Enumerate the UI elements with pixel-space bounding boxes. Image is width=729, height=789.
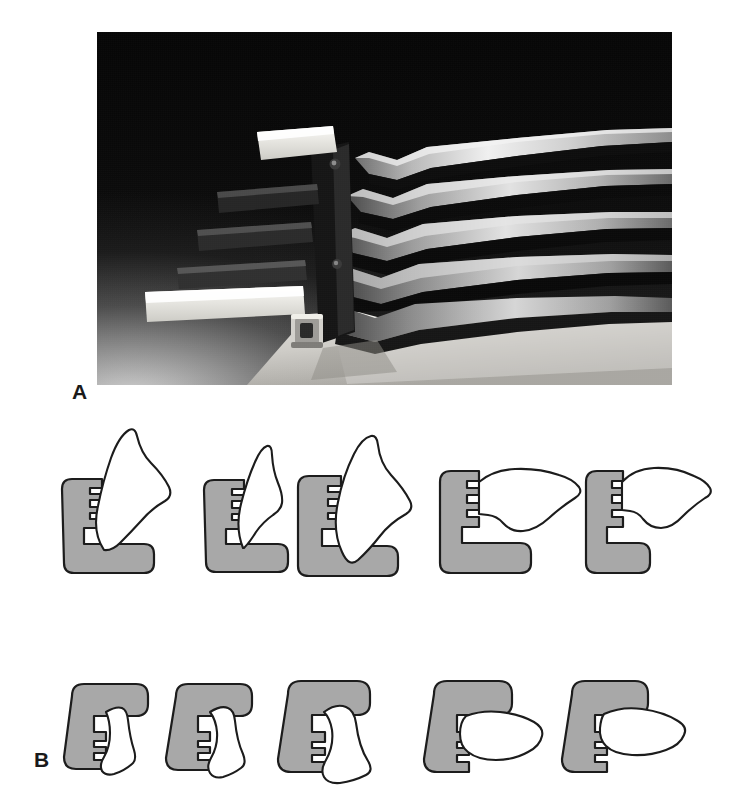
photo-pivot-bolt-2-highlight <box>334 261 338 265</box>
panel-label-a: A <box>72 381 88 402</box>
diagram-a-4-blade <box>479 469 580 531</box>
diagram-a-4 <box>440 469 580 573</box>
diagram-a-5-blade <box>622 468 711 528</box>
figure-page: A <box>0 0 729 789</box>
diagram-b-2 <box>166 684 252 778</box>
diagram-b-3-blade <box>322 706 370 783</box>
diagram-row-inverted <box>0 660 729 785</box>
photo-instrument-illustration <box>97 32 672 385</box>
diagram-b-3 <box>278 681 371 783</box>
diagram-b-5-blade <box>600 708 685 755</box>
photo-knurled-nut <box>291 314 323 348</box>
diagram-b-1 <box>64 684 148 775</box>
diagram-row-upright <box>0 424 729 584</box>
diagram-b-4-blade <box>460 712 542 761</box>
diagram-row-a-svg <box>0 424 729 584</box>
diagram-a-1 <box>62 429 170 573</box>
panel-a-photograph <box>97 32 672 385</box>
diagram-a-2 <box>204 446 288 572</box>
diagram-a-5 <box>586 468 711 573</box>
panel-label-b: B <box>34 749 50 770</box>
diagram-row-b-svg <box>0 660 729 785</box>
diagram-b-2-blade <box>208 707 244 777</box>
photo-pivot-bolt-1-highlight <box>332 161 337 166</box>
diagram-b-5 <box>562 681 685 772</box>
diagram-a-2-blade <box>238 446 282 548</box>
diagram-a-3 <box>298 436 411 576</box>
diagram-a-1-blade <box>96 429 170 550</box>
diagram-a-3-blade <box>336 436 412 563</box>
diagram-b-4 <box>424 681 542 772</box>
